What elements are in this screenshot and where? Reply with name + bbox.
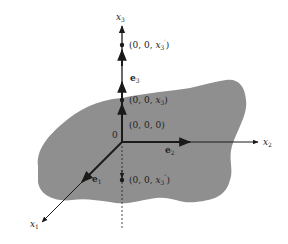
label-origin-point: (0, 0, 0) [129,120,165,130]
origin-label: 0 [112,130,118,140]
label-x3-double-prime: (0, 0, x3″) [129,173,170,186]
x1-axis-label: x1 [30,219,39,230]
point-x3-double-prime [120,178,124,182]
label-x3-prime: (0, 0, x3′) [129,38,169,51]
point-x3 [120,98,124,102]
coordinate-diagram: x3 x2 x1 0 e3 e2 e1 (0, 0, x3′) (0, 0, x… [0,0,288,244]
e3-label: e3 [130,73,140,84]
point-x3-prime [120,43,124,47]
x2-axis-label: x2 [263,137,272,148]
x3-axis-label: x3 [116,12,125,23]
